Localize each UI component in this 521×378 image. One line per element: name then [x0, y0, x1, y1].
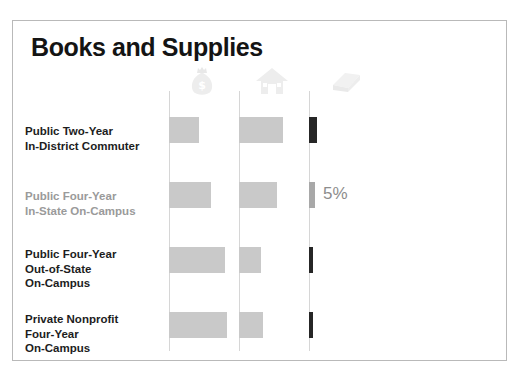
- bar-books: [309, 312, 313, 338]
- slide-frame: Books and Supplies $ Public Two-Year: [12, 20, 507, 361]
- bar-tuition: [169, 312, 227, 338]
- money-bag-icon: $: [185, 65, 219, 97]
- page-title: Books and Supplies: [31, 33, 263, 62]
- row-label-line: Public Four-Year: [25, 189, 165, 204]
- books-icon: [329, 65, 363, 97]
- row-label: Public Four-Year Out-of-State On-Campus: [25, 247, 165, 291]
- row-label-line: Four-Year: [25, 327, 165, 342]
- row-label: Public Four-Year In-State On-Campus: [25, 189, 165, 218]
- row-label-line: Public Four-Year: [25, 247, 165, 262]
- row-label-line: Out-of-State: [25, 262, 165, 277]
- svg-text:$: $: [198, 79, 206, 92]
- row-label-line: On-Campus: [25, 276, 165, 291]
- bar-books: [309, 117, 317, 143]
- bar-housing: [239, 312, 263, 338]
- bar-housing: [239, 182, 277, 208]
- row-label-line: Private Nonprofit: [25, 312, 165, 327]
- bar-tuition: [169, 182, 211, 208]
- bar-tuition: [169, 117, 199, 143]
- row-label: Public Two-Year In-District Commuter: [25, 124, 165, 153]
- bar-housing: [239, 117, 283, 143]
- row-label-line: Public Two-Year: [25, 124, 165, 139]
- bar-books: [309, 182, 315, 208]
- row-label: Private Nonprofit Four-Year On-Campus: [25, 312, 165, 356]
- row-label-line: In-State On-Campus: [25, 204, 165, 219]
- bar-books: [309, 247, 313, 273]
- row-label-line: In-District Commuter: [25, 139, 165, 154]
- bar-housing: [239, 247, 261, 273]
- row-label-line: On-Campus: [25, 341, 165, 356]
- house-icon: [255, 65, 289, 97]
- bar-tuition: [169, 247, 225, 273]
- bar-value-label: 5%: [323, 184, 348, 204]
